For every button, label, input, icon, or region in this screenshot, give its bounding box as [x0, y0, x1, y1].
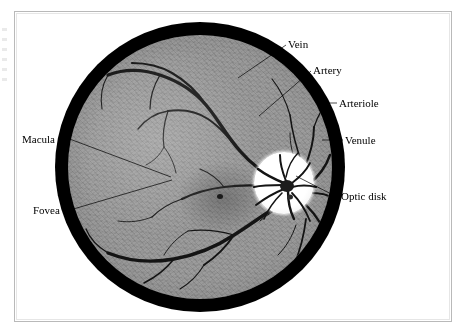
label-arteriole: Arteriole	[339, 97, 379, 109]
retina-surface	[68, 35, 332, 299]
fundus-photograph	[55, 22, 345, 312]
optic-disk-vessel-origin	[68, 35, 332, 299]
scan-artifact	[2, 78, 7, 81]
scan-artifact	[2, 38, 7, 41]
label-optic-disk: Optic disk	[341, 190, 387, 202]
scan-artifact	[2, 68, 7, 71]
scan-artifact	[2, 58, 7, 61]
label-venule: Venule	[345, 134, 376, 146]
label-vein: Vein	[288, 38, 308, 50]
fovea-point	[217, 194, 223, 199]
scan-artifact	[2, 48, 7, 51]
label-macula: Macula	[22, 133, 55, 145]
figure-root: Vein Artery Arteriole Venule Optic disk …	[0, 0, 465, 335]
label-artery: Artery	[313, 64, 342, 76]
scan-artifact	[2, 28, 7, 31]
label-fovea: Fovea	[33, 204, 60, 216]
